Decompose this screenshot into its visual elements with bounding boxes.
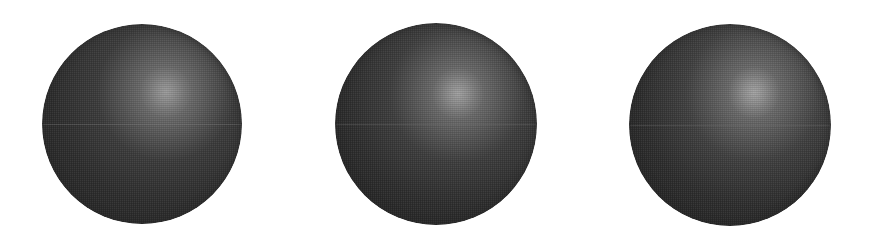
edge-shade: [629, 24, 831, 226]
sphere-1: [42, 24, 242, 224]
edge-shade: [42, 24, 242, 224]
edge-shade: [335, 23, 537, 225]
sphere-2: [335, 23, 537, 225]
sphere-3: [629, 24, 831, 226]
